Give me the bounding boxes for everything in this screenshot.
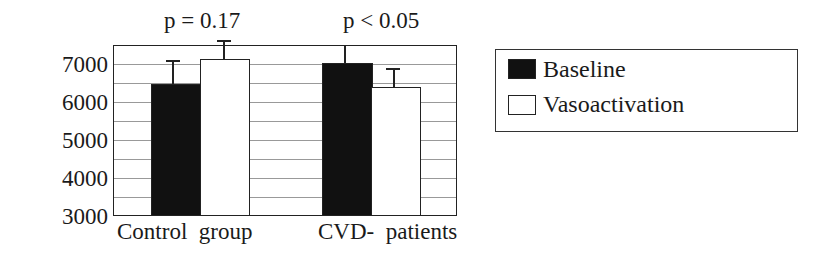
y-tick-label: 5000 [8,129,108,152]
error-bar [393,69,395,87]
plot-area [113,45,457,216]
gridline [114,64,456,65]
y-axis: 7000 6000 5000 4000 3000 [0,0,108,255]
x-category-label: CVD- patients [318,220,457,243]
error-bar [344,46,346,64]
error-bar [172,61,174,85]
x-category-label: Control group [117,220,252,243]
legend-label-baseline: Baseline [543,57,626,81]
error-cap [166,60,180,62]
y-tick-label: 6000 [8,91,108,114]
y-tick-label: 3000 [8,205,108,228]
p-value-cvd: p < 0.05 [343,9,419,32]
y-tick-label: 4000 [8,167,108,190]
legend-swatch-baseline [508,59,536,79]
error-bar [223,41,225,60]
p-value-control: p = 0.17 [164,9,240,32]
error-cap [217,40,231,42]
bar-cvd-baseline [322,63,373,216]
legend-swatch-vasoactivation [508,95,536,115]
legend-label-vasoactivation: Vasoactivation [543,92,684,116]
error-cap [386,68,400,70]
bar-control-baseline [151,84,201,216]
bar-cvd-vasoactivation [371,87,421,216]
legend: Baseline Vasoactivation [495,49,798,132]
bar-control-vasoactivation [200,59,250,216]
y-tick-label: 7000 [8,53,108,76]
